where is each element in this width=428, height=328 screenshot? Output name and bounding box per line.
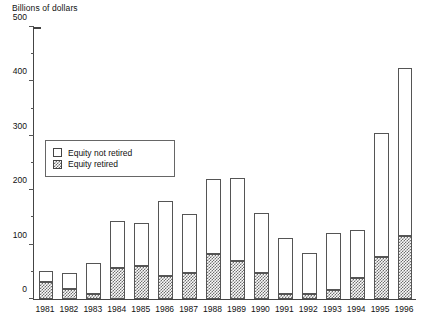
bar-segment-equity-not-retired <box>182 214 197 273</box>
bar-segment-equity-not-retired <box>254 213 269 273</box>
bar-segment-equity-retired <box>182 273 197 299</box>
bar-segment-equity-retired <box>134 266 149 299</box>
bar-1984 <box>110 221 125 299</box>
bar-segment-equity-not-retired <box>278 238 293 294</box>
y-tick-label: 200 <box>13 175 27 185</box>
bar-segment-equity-retired <box>230 261 245 299</box>
bar-segment-equity-not-retired <box>398 68 413 237</box>
bar-segment-equity-retired <box>110 268 125 299</box>
x-tick-label-1981: 1981 <box>33 304 57 314</box>
bar-segment-equity-not-retired <box>326 233 341 291</box>
x-tick-label-1989: 1989 <box>225 304 249 314</box>
bar-segment-equity-not-retired <box>110 221 125 268</box>
bar-segment-equity-not-retired <box>158 201 173 276</box>
bar-1985 <box>134 223 149 299</box>
bar-segment-equity-retired <box>86 294 101 299</box>
bar-1993 <box>326 233 341 299</box>
x-tick-label-1990: 1990 <box>248 304 272 314</box>
bar-segment-equity-not-retired <box>350 230 365 278</box>
x-tick-label-1983: 1983 <box>81 304 105 314</box>
bar-segment-equity-retired <box>278 294 293 299</box>
x-tick-label-1982: 1982 <box>57 304 81 314</box>
bar-1990 <box>254 213 269 299</box>
bar-segment-equity-not-retired <box>230 178 245 261</box>
legend-item-equity-not-retired: Equity not retired <box>53 148 168 158</box>
bar-segment-equity-not-retired <box>374 133 389 256</box>
x-tick-label-1994: 1994 <box>344 304 368 314</box>
x-tick-label-1993: 1993 <box>320 304 344 314</box>
chart-legend: Equity not retired Equity retired <box>45 140 175 177</box>
y-tick-label: 100 <box>13 230 27 240</box>
bar-segment-equity-retired <box>206 254 221 299</box>
bar-1992 <box>302 253 317 299</box>
bar-segment-equity-not-retired <box>134 223 149 266</box>
bar-segment-equity-retired <box>39 282 54 299</box>
legend-swatch-open-icon <box>53 148 62 157</box>
x-tick-label-1984: 1984 <box>105 304 129 314</box>
bar-1982 <box>62 273 77 299</box>
bar-segment-equity-retired <box>302 294 317 299</box>
bar-segment-equity-retired <box>398 236 413 299</box>
y-tick-major <box>29 26 34 27</box>
legend-item-equity-retired: Equity retired <box>53 159 168 169</box>
bar-segment-equity-not-retired <box>62 273 77 289</box>
x-tick-label-1996: 1996 <box>392 304 416 314</box>
bar-segment-equity-retired <box>62 289 77 299</box>
bar-1989 <box>230 178 245 299</box>
bar-1988 <box>206 179 221 299</box>
bar-1983 <box>86 263 101 299</box>
bar-segment-equity-retired <box>254 273 269 299</box>
bar-1991 <box>278 238 293 299</box>
y-tick-label: 0 <box>22 284 27 294</box>
bar-segment-equity-not-retired <box>302 253 317 294</box>
bar-segment-equity-not-retired <box>206 179 221 255</box>
y-tick-label: 500 <box>13 12 27 22</box>
bar-1987 <box>182 214 197 299</box>
bar-segment-equity-retired <box>374 257 389 299</box>
x-tick-label-1992: 1992 <box>296 304 320 314</box>
bar-segment-equity-retired <box>158 276 173 299</box>
y-tick-label: 400 <box>13 66 27 76</box>
legend-swatch-hatch-icon <box>53 160 62 169</box>
x-tick-label-1988: 1988 <box>201 304 225 314</box>
bar-1996 <box>398 68 413 299</box>
bar-segment-equity-not-retired <box>86 263 101 294</box>
x-tick-label-1986: 1986 <box>153 304 177 314</box>
bar-1981 <box>39 271 54 299</box>
bar-1986 <box>158 201 173 299</box>
legend-label-equity-retired: Equity retired <box>68 159 118 169</box>
bar-1995 <box>374 133 389 299</box>
x-tick-label-1991: 1991 <box>272 304 296 314</box>
bar-segment-equity-retired <box>326 290 341 299</box>
bar-segment-equity-retired <box>350 278 365 299</box>
x-tick-label-1987: 1987 <box>177 304 201 314</box>
bar-segment-equity-not-retired <box>39 271 54 282</box>
bar-1994 <box>350 230 365 299</box>
legend-label-equity-not-retired: Equity not retired <box>68 148 132 158</box>
x-tick-label-1995: 1995 <box>368 304 392 314</box>
y-tick-label: 300 <box>13 121 27 131</box>
x-tick-label-1985: 1985 <box>129 304 153 314</box>
chart-figure: Billions of dollars 0100200300400500 198… <box>0 0 428 328</box>
